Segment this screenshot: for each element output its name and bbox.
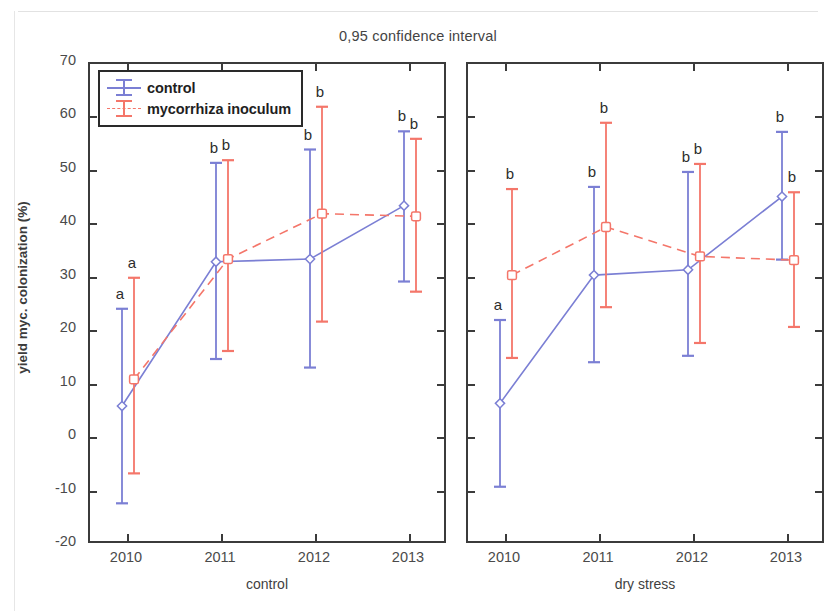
data-point-marker[interactable] (790, 256, 799, 265)
panel-caption-control: control (88, 576, 446, 592)
data-point-marker[interactable] (211, 257, 220, 266)
x-tick-label-2010: 2010 (110, 549, 142, 565)
data-point-marker[interactable] (602, 223, 611, 232)
data-point-marker[interactable] (508, 271, 517, 280)
significance-letter: b (588, 164, 596, 179)
series-line-mycorrhiza-inoculum (512, 227, 794, 275)
error-bar-mycorrhiza-inoculum-2011 (600, 123, 612, 307)
confidence-interval-chart: 0,95 confidence interval yield myc. colo… (0, 0, 836, 615)
series-line-control (500, 197, 782, 404)
significance-letter: b (600, 100, 608, 115)
y-tick-40: 40 (18, 213, 76, 228)
y-tick-20: 20 (18, 320, 76, 335)
significance-letter: b (398, 108, 406, 123)
y-tick-50: 50 (18, 160, 76, 175)
data-point-marker[interactable] (399, 201, 408, 210)
significance-letter: b (316, 84, 324, 99)
significance-letter: b (682, 149, 690, 164)
significance-letter: b (222, 137, 230, 152)
series-overlay-control (90, 64, 448, 545)
y-tick-10: 10 (18, 374, 76, 389)
legend-item-control[interactable]: control (107, 77, 291, 98)
panel-dry-stress (466, 62, 824, 543)
chart-title: 0,95 confidence interval (0, 28, 836, 44)
legend-key-control-icon (107, 79, 141, 96)
series-line-control (122, 206, 404, 406)
data-point-marker[interactable] (318, 209, 327, 218)
data-point-marker[interactable] (117, 401, 126, 410)
data-point-marker[interactable] (224, 255, 233, 264)
data-point-marker[interactable] (130, 375, 139, 384)
data-point-marker[interactable] (305, 254, 314, 263)
x-tick-label-2011: 2011 (204, 549, 235, 565)
significance-letter: a (116, 286, 124, 301)
significance-letter: b (506, 166, 514, 181)
significance-letter: b (776, 109, 784, 124)
y-tick-neg10: -10 (18, 481, 76, 496)
y-tick-70: 70 (18, 53, 76, 68)
y-tick-60: 60 (18, 106, 76, 121)
legend-item-mycorrhiza[interactable]: mycorrhiza inoculum (107, 98, 291, 119)
data-point-marker[interactable] (696, 252, 705, 261)
x-tick-label-2011: 2011 (582, 549, 613, 565)
chart-legend: control mycorrhiza inoculum (98, 70, 303, 127)
y-tick-neg20: -20 (18, 534, 76, 549)
x-tick-label-2012: 2012 (676, 549, 708, 565)
significance-letter: b (788, 169, 796, 184)
series-overlay-dry-stress (468, 64, 826, 545)
significance-letter: a (128, 255, 136, 270)
y-axis-label: yield myc. colonization (%) (15, 138, 30, 438)
significance-letter: b (210, 140, 218, 155)
y-tick-0: 0 (18, 427, 76, 442)
data-point-marker[interactable] (412, 212, 421, 221)
panel-caption-dry-stress: dry stress (466, 576, 824, 592)
x-tick-label-2013: 2013 (770, 549, 802, 565)
legend-label-mycorrhiza: mycorrhiza inoculum (147, 101, 291, 117)
x-tick-label-2010: 2010 (488, 549, 520, 565)
significance-letter: b (694, 141, 702, 156)
error-bar-control-2012 (682, 172, 694, 356)
x-tick-label-2013: 2013 (392, 549, 424, 565)
y-tick-30: 30 (18, 267, 76, 282)
significance-letter: a (494, 297, 502, 312)
significance-letter: b (304, 127, 312, 142)
x-tick-label-2012: 2012 (298, 549, 330, 565)
series-line-mycorrhiza-inoculum (134, 214, 416, 380)
significance-letter: b (410, 116, 418, 131)
legend-label-control: control (147, 80, 195, 96)
legend-key-mycorrhiza-icon (107, 100, 141, 117)
panel-control: control mycorrhiza inoculum (88, 62, 446, 543)
